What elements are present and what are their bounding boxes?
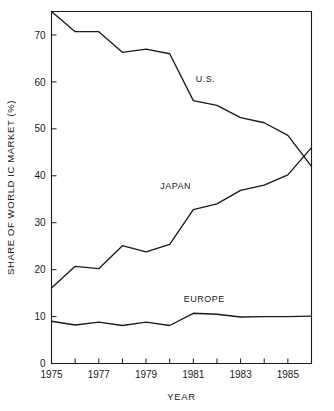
y-tick-label: 10 (34, 311, 46, 322)
x-tick-label: 1983 (229, 369, 252, 380)
series-label-europe: EUROPE (184, 294, 225, 304)
series-label-us: U.S. (196, 74, 216, 84)
x-axis-title: YEAR (167, 391, 195, 402)
y-tick-label: 40 (34, 170, 46, 181)
chart-container: 010203040506070 197519771979198119831985… (0, 0, 334, 411)
x-tick-label: 1975 (40, 369, 63, 380)
x-tick-label: 1979 (135, 369, 158, 380)
x-tick-label: 1981 (182, 369, 205, 380)
y-axis-ticks (52, 35, 57, 364)
series-lines (52, 12, 312, 326)
series-line-japan (52, 148, 312, 288)
y-tick-label: 0 (40, 358, 46, 369)
series-label-japan: JAPAN (160, 181, 191, 191)
y-tick-label: 30 (34, 217, 46, 228)
series-line-europe (52, 313, 312, 325)
series-annotations: U.S.JAPANEUROPE (160, 74, 225, 305)
y-axis-title: SHARE OF WORLD IC MARKET (%) (5, 100, 16, 275)
x-axis-ticks (52, 359, 312, 364)
x-tick-label: 1977 (88, 369, 111, 380)
series-line-us (52, 12, 312, 167)
line-chart: 010203040506070 197519771979198119831985… (0, 0, 334, 411)
y-tick-label: 50 (34, 123, 46, 134)
y-tick-label: 70 (34, 30, 46, 41)
x-tick-label: 1985 (277, 369, 300, 380)
y-tick-label: 60 (34, 77, 46, 88)
x-axis-tick-labels: 197519771979198119831985 (40, 369, 299, 380)
y-tick-label: 20 (34, 264, 46, 275)
y-axis-tick-labels: 010203040506070 (34, 30, 46, 370)
